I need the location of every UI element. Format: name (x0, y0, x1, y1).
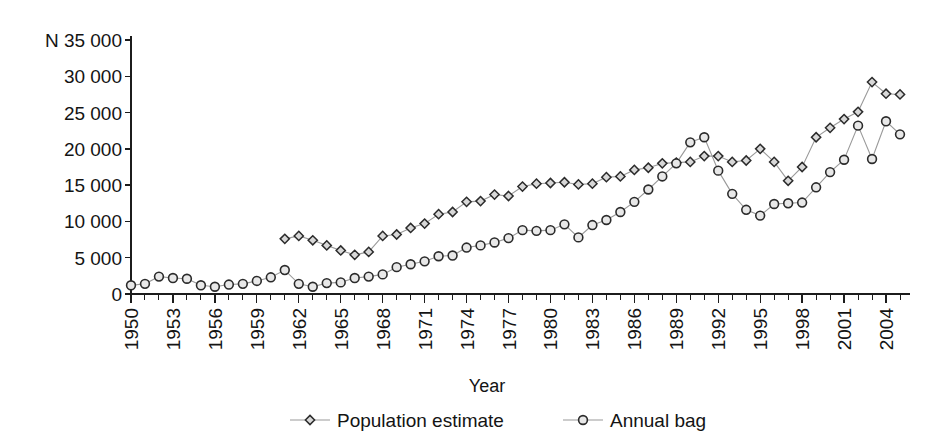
data-point-marker (294, 279, 303, 288)
data-point-marker (672, 159, 681, 168)
data-point-marker (127, 281, 136, 290)
data-point-marker (826, 168, 835, 177)
x-axis-labels: 1950195319561959196219651968197119741977… (121, 308, 897, 351)
data-point-marker (658, 159, 667, 168)
data-point-marker (714, 166, 723, 175)
data-point-marker (784, 199, 793, 208)
data-point-marker (434, 252, 443, 261)
x-axis-tick-label: 1971 (415, 308, 436, 350)
legend-item-population-estimate[interactable]: Population estimate (290, 410, 504, 431)
data-point-marker (336, 246, 345, 255)
data-point-marker (224, 280, 233, 289)
data-point-marker (518, 226, 527, 235)
data-point-marker (183, 274, 192, 283)
x-axis-title-text: Year (469, 376, 505, 396)
x-axis-tick-label: 1959 (247, 308, 268, 350)
data-point-marker (210, 282, 219, 291)
data-point-marker (448, 207, 457, 216)
x-axis-tick-label: 1965 (331, 308, 352, 350)
data-point-marker (462, 197, 471, 206)
data-point-marker (700, 133, 709, 142)
data-point-marker (756, 211, 765, 220)
legend-label: Population estimate (337, 410, 504, 431)
data-point-marker (895, 90, 904, 99)
data-point-marker (840, 155, 849, 164)
x-axis-tick-label: 1992 (708, 308, 729, 350)
data-point-marker (504, 234, 513, 243)
data-point-marker (420, 257, 429, 266)
x-axis-tick-label: 1956 (205, 308, 226, 350)
data-point-marker (322, 241, 331, 250)
x-axis-tick-label: 1974 (457, 308, 478, 351)
data-point-marker (742, 205, 751, 214)
data-point-marker (280, 266, 289, 275)
data-point-marker (392, 263, 401, 272)
data-point-marker (448, 251, 457, 260)
data-point-marker (658, 172, 667, 181)
data-point-marker (644, 163, 653, 172)
data-point-marker (504, 191, 513, 200)
data-point-marker (588, 179, 597, 188)
data-point-marker (490, 190, 499, 199)
data-point-marker (714, 152, 723, 161)
x-axis-tick-label: 1980 (540, 308, 561, 350)
data-point-marker (476, 197, 485, 206)
data-point-marker (770, 200, 779, 209)
y-axis-tick-label: N 35 000 (45, 30, 122, 51)
data-point-marker (462, 243, 471, 252)
y-axis-labels: 05 00010 00015 00020 00025 00030 000N 35… (45, 30, 122, 305)
data-point-marker (490, 238, 499, 247)
data-point-marker (434, 210, 443, 219)
x-axis-tick-label: 1983 (582, 308, 603, 350)
x-axis-tick-label: 1962 (289, 308, 310, 350)
data-point-marker (588, 221, 597, 230)
data-point-marker (812, 183, 821, 192)
data-point-marker (308, 282, 317, 291)
data-point-marker (686, 138, 695, 147)
data-point-marker (546, 226, 555, 235)
legend-label: Annual bag (610, 410, 706, 431)
x-axis-tick-label: 1989 (666, 308, 687, 350)
legend-item-annual-bag[interactable]: Annual bag (563, 410, 706, 431)
y-axis-tick-label: 25 000 (64, 103, 122, 124)
data-point-marker (141, 279, 150, 288)
y-axis-ticks (125, 40, 131, 294)
x-axis-tick-label: 1995 (750, 308, 771, 350)
data-point-marker (169, 274, 178, 283)
data-point-marker (252, 277, 261, 286)
axis-lines (131, 36, 910, 294)
data-point-marker (630, 197, 639, 206)
data-point-marker (350, 250, 359, 259)
line-chart: 05 00010 00015 00020 00025 00030 000N 35… (0, 0, 925, 442)
x-axis-tick-label: 1968 (373, 308, 394, 350)
data-point-marker (350, 274, 359, 283)
data-point-marker (266, 273, 275, 282)
data-point-marker (574, 233, 583, 242)
x-axis-title: Year (469, 376, 505, 396)
chart-legend: Population estimateAnnual bag (290, 410, 706, 431)
data-point-marker (825, 123, 834, 132)
data-point-marker (882, 117, 891, 126)
x-axis-tick-label: 2004 (876, 308, 897, 351)
data-point-marker (197, 281, 206, 290)
data-point-marker (560, 178, 569, 187)
y-axis-tick-label: 20 000 (64, 139, 122, 160)
data-point-marker (630, 165, 639, 174)
chart-container: 05 00010 00015 00020 00025 00030 000N 35… (0, 0, 925, 442)
y-axis-tick-label: 30 000 (64, 66, 122, 87)
data-point-marker (853, 107, 862, 116)
data-point-marker (308, 236, 317, 245)
data-point-marker (868, 155, 877, 164)
series-population-estimate (280, 77, 904, 259)
data-point-marker (518, 182, 527, 191)
data-point-marker (602, 173, 611, 182)
data-point-marker (602, 216, 611, 225)
series-annual-bag (127, 117, 905, 291)
legend-marker-circle-icon (579, 416, 588, 425)
data-point-marker (812, 133, 821, 142)
x-axis-ticks (131, 294, 900, 303)
data-point-marker (616, 208, 625, 217)
data-point-marker (700, 152, 709, 161)
data-point-marker (532, 226, 541, 235)
data-point-marker (798, 198, 807, 207)
